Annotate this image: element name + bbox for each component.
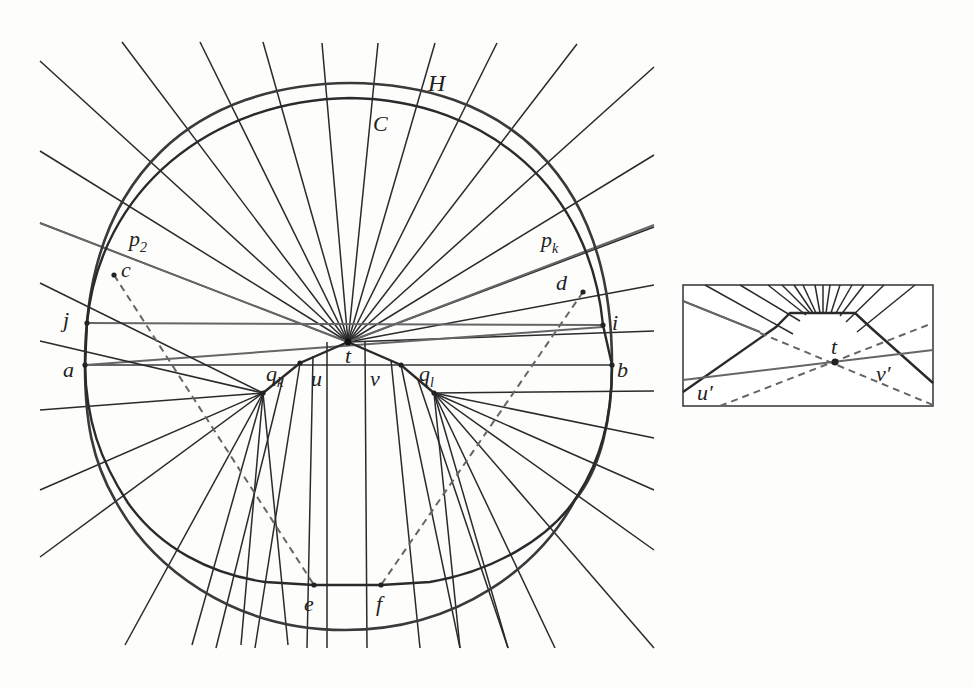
point-i: [600, 322, 605, 327]
point-v: [398, 362, 403, 367]
dashed-line-c-e: [114, 275, 314, 585]
point-j: [84, 320, 89, 325]
geometry-figure: HCp2cpkdjiabtqkuvqlef tu′v′: [0, 0, 974, 687]
ray-from-t: [122, 42, 348, 342]
label-v: v: [370, 366, 380, 391]
gray-line: [87, 323, 603, 325]
label-p2: p2: [127, 226, 147, 255]
ray-from-t: [348, 43, 378, 342]
label-d: d: [556, 270, 568, 295]
label-u_prime: u′: [697, 380, 714, 405]
ray-from-ql: [434, 393, 508, 648]
ray-from-ql: [434, 393, 654, 490]
inset-zoom: tu′v′: [683, 285, 933, 406]
point-b: [609, 362, 614, 367]
point-c: [111, 272, 116, 277]
inset-frame: [683, 285, 933, 406]
point-d: [580, 289, 585, 294]
label-pk: pk: [539, 227, 559, 256]
point-a: [82, 362, 87, 367]
ray-from-v: [391, 360, 420, 648]
label-t_prime: t: [831, 334, 838, 359]
label-C: C: [373, 111, 388, 136]
dashed-lines: [114, 275, 583, 585]
vertical-ray: [365, 342, 367, 648]
ray-from-t: [348, 331, 654, 342]
label-v_prime: v′: [876, 361, 892, 386]
label-t: t: [345, 343, 352, 368]
point-e: [311, 582, 316, 587]
label-a: a: [63, 357, 74, 382]
point-qk: [260, 390, 265, 395]
label-e: e: [304, 591, 314, 616]
ray-from-qk: [125, 393, 263, 645]
label-u: u: [311, 366, 322, 391]
point-f: [378, 582, 383, 587]
inset-point-t: [832, 359, 839, 366]
label-c: c: [121, 257, 131, 282]
ray-from-v: [401, 365, 460, 648]
point-ql: [431, 390, 436, 395]
ray-from-ql: [434, 393, 460, 648]
label-j: j: [60, 307, 69, 332]
label-f: f: [376, 591, 385, 616]
label-i: i: [612, 310, 618, 335]
point-u: [297, 360, 302, 365]
label-b: b: [617, 357, 628, 382]
label-H: H: [427, 70, 447, 96]
ray-from-ql: [434, 391, 654, 393]
